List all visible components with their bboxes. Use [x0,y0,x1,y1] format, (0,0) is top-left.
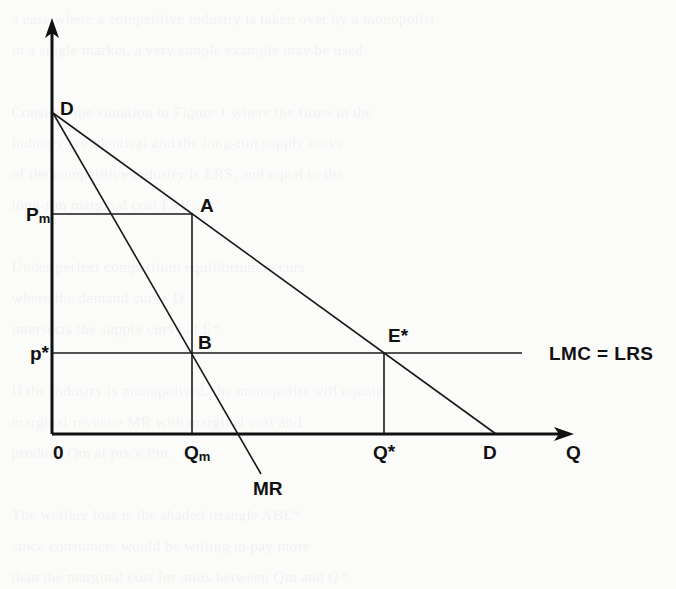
label-price-p-star: p* [30,344,49,363]
label-point-b: B [198,333,212,352]
label-x-axis-q: Q [566,443,581,462]
marginal-revenue-curve [53,113,261,474]
label-price-pm: Pm [26,205,50,224]
demand-curve [53,113,496,434]
label-demand-x-intercept: D [483,443,497,462]
label-point-e-star: E* [388,326,408,345]
label-origin: 0 [53,443,64,462]
label-point-d-top: D [60,99,74,118]
label-quantity-qm: Qm [184,443,210,462]
label-quantity-q-star: Q* [373,443,395,462]
label-point-a: A [200,196,214,215]
label-lmc-lrs: LMC = LRS [549,344,653,363]
y-axis [45,18,59,434]
label-mr: MR [253,479,283,498]
